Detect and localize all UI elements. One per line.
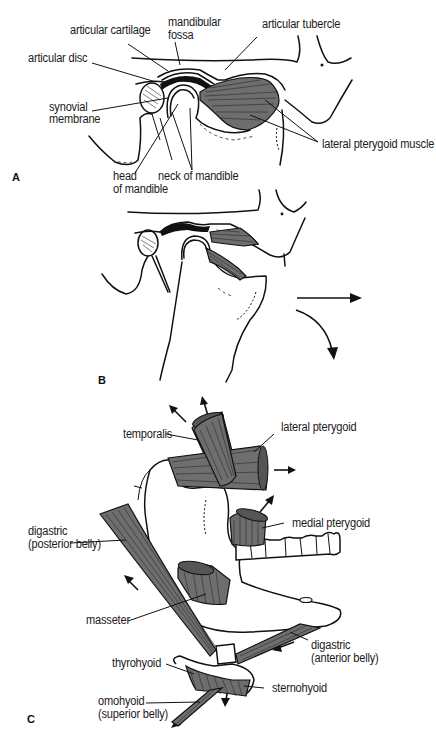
- label-synovial-membrane-line2: membrane: [49, 113, 100, 126]
- panel-letter-a: A: [12, 171, 20, 183]
- label-articular-disc: articular disc: [28, 52, 87, 65]
- panel-letter-c: C: [27, 713, 35, 725]
- label-mandibular-fossa-line2: fossa: [168, 29, 193, 42]
- label-omohyoid-line2: (superior belly): [98, 708, 168, 721]
- panel-a-leaders: [92, 37, 318, 173]
- label-neck-of-mandible: neck of mandible: [158, 170, 239, 183]
- label-thyrohyoid: thyrohyoid: [112, 657, 161, 670]
- panel-letter-b: B: [98, 374, 106, 386]
- label-masseter: masseter: [86, 614, 130, 627]
- panel-b-drawing: [102, 190, 362, 382]
- tmj-anatomy-figure: articular cartilage mandibular fossa art…: [0, 0, 436, 742]
- label-articular-cartilage: articular cartilage: [70, 24, 151, 37]
- label-digastric-anterior-line2: (anterior belly): [311, 652, 379, 665]
- panel-c-drawing: [100, 396, 341, 728]
- label-articular-tubercle: articular tubercle: [262, 18, 340, 31]
- label-temporalis: temporalis: [123, 428, 172, 441]
- label-lateral-pterygoid-muscle: lateral pterygoid muscle: [322, 138, 434, 151]
- label-sternohyoid: sternohyoid: [272, 682, 327, 695]
- label-medial-pterygoid: medial pterygoid: [292, 517, 370, 530]
- label-lateral-pterygoid: lateral pterygoid: [281, 421, 356, 434]
- label-digastric-posterior-line2: (posterior belly): [28, 538, 101, 551]
- panel-a-drawing: [89, 36, 352, 165]
- label-head-of-mandible-line2: of mandible: [113, 183, 168, 196]
